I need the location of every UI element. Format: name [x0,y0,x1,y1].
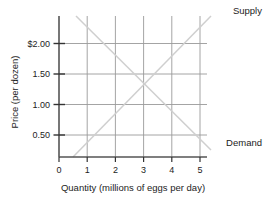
y-tick-label-050: 0.50 [32,130,50,140]
y-tick-label-200: $2.00 [27,39,50,49]
plot-area-background [59,16,207,157]
y-tick-label-150: 1.50 [32,69,50,79]
y-tick-label-100: 1.00 [32,100,50,110]
x-tick-label-1: 1 [85,165,90,175]
x-tick-label-0: 0 [56,165,61,175]
supply-curve-label: Supply [233,5,262,16]
supply-demand-chart: $2.00 1.50 1.00 0.50 0 1 2 3 4 5 Quantit… [0,0,267,205]
x-tick-label-5: 5 [197,165,202,175]
y-axis-title: Price (per dozen) [9,56,20,129]
x-axis-title: Quantity (millions of eggs per day) [61,182,205,193]
chart-canvas: $2.00 1.50 1.00 0.50 0 1 2 3 4 5 Quantit… [0,0,267,205]
demand-curve-label: Demand [226,137,262,148]
x-tick-label-4: 4 [169,165,174,175]
x-tick-label-3: 3 [141,165,146,175]
x-tick-label-2: 2 [113,165,118,175]
